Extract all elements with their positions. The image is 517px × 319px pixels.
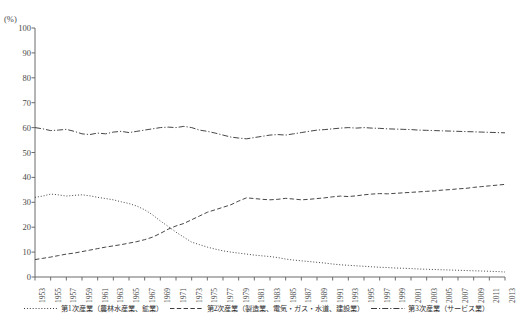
x-tick-label: 1987	[304, 288, 313, 303]
x-tick-label: 2007	[461, 288, 470, 303]
x-tick-label: 1961	[101, 288, 110, 303]
x-tick-label: 1977	[226, 288, 235, 303]
legend-item-3[interactable]: 第3次産業（サービス業）	[371, 303, 489, 313]
x-axis-tick-labels: 1953195519571959196119631965196719691971…	[35, 279, 505, 305]
dashed-line-icon	[170, 305, 204, 312]
dotted-line-icon	[24, 305, 58, 312]
x-tick-label: 1975	[210, 288, 219, 303]
y-tick-label: 80	[9, 73, 31, 83]
y-tick-label: 50	[9, 148, 31, 158]
x-tick-label: 2001	[414, 288, 423, 303]
x-tick-label: 1959	[85, 288, 94, 303]
y-tick-label: 100	[9, 23, 31, 33]
y-tick-label: 60	[9, 123, 31, 133]
legend-item-1[interactable]: 第1次産業（農林水産業、鉱業）	[24, 303, 163, 313]
y-tick-label: 90	[9, 48, 31, 58]
x-tick-label: 2005	[445, 288, 454, 303]
y-tick-label: 0	[9, 272, 31, 282]
y-axis-tick-labels: 0102030405060708090100	[5, 28, 31, 277]
plot-canvas	[35, 28, 505, 277]
y-tick-label: 30	[9, 197, 31, 207]
x-tick-label: 2013	[508, 288, 517, 303]
legend-label: 第3次産業（サービス業）	[408, 303, 489, 313]
x-tick-label: 1965	[132, 288, 141, 303]
y-tick-label: 40	[9, 172, 31, 182]
chart-legend: 第1次産業（農林水産業、鉱業）第2次産業（製造業、電気・ガス・水道、建設業）第3…	[0, 303, 513, 313]
x-tick-label: 2003	[430, 288, 439, 303]
legend-label: 第1次産業（農林水産業、鉱業）	[61, 303, 163, 313]
x-tick-label: 1993	[351, 288, 360, 303]
x-tick-label: 1957	[69, 288, 78, 303]
x-tick-label: 2009	[477, 288, 486, 303]
y-tick-label: 20	[9, 222, 31, 232]
x-tick-label: 1985	[289, 288, 298, 303]
series-line-2	[35, 184, 505, 259]
x-tick-label: 2011	[492, 288, 501, 303]
y-tick-label: 10	[9, 247, 31, 257]
legend-item-2[interactable]: 第2次産業（製造業、電気・ガス・水道、建設業）	[170, 303, 365, 313]
x-tick-label: 1973	[195, 288, 204, 303]
chart-title-clipped	[120, 0, 400, 6]
x-tick-label: 1969	[163, 288, 172, 303]
x-tick-label: 1997	[383, 288, 392, 303]
x-tick-label: 1999	[398, 288, 407, 303]
x-tick-label: 1995	[367, 288, 376, 303]
x-tick-label: 1979	[242, 288, 251, 303]
x-tick-label: 1991	[336, 288, 345, 303]
x-tick-label: 1983	[273, 288, 282, 303]
x-tick-label: 1971	[179, 288, 188, 303]
plot-area	[35, 28, 505, 277]
y-tick-label: 70	[9, 98, 31, 108]
x-tick-label: 1981	[257, 288, 266, 303]
x-tick-label: 1955	[54, 288, 63, 303]
x-tick-label: 1989	[320, 288, 329, 303]
series-line-3	[35, 126, 505, 138]
x-tick-label: 1967	[148, 288, 157, 303]
dash-dot-line-icon	[371, 305, 405, 312]
legend-label: 第2次産業（製造業、電気・ガス・水道、建設業）	[207, 303, 365, 313]
x-tick-label: 1953	[38, 288, 47, 303]
x-tick-label: 1963	[116, 288, 125, 303]
series-line-1	[35, 194, 505, 272]
